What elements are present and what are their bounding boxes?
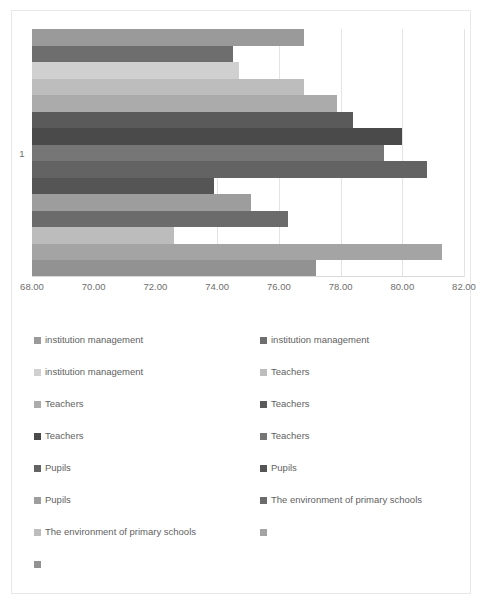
bar[interactable] bbox=[32, 62, 239, 79]
bar[interactable] bbox=[32, 178, 214, 195]
value-axis-labels: 68.0070.0072.0074.0076.0078.0080.0082.00 bbox=[32, 279, 464, 299]
bar[interactable] bbox=[32, 161, 427, 178]
value-tick-label: 80.00 bbox=[390, 281, 414, 292]
legend-item-label: Teachers bbox=[271, 398, 310, 410]
legend-swatch-icon bbox=[34, 337, 41, 344]
legend-item-label: The environment of primary schools bbox=[45, 526, 196, 538]
bar[interactable] bbox=[32, 145, 384, 162]
legend-item[interactable]: Teachers bbox=[260, 429, 310, 443]
bar-series-group bbox=[32, 29, 464, 277]
legend-swatch-icon bbox=[34, 561, 41, 568]
legend-item[interactable]: institution management bbox=[34, 365, 143, 379]
value-tick-label: 76.00 bbox=[267, 281, 291, 292]
legend-item[interactable]: Teachers bbox=[260, 365, 310, 379]
legend-swatch-icon bbox=[260, 401, 267, 408]
bar[interactable] bbox=[32, 112, 353, 129]
bar[interactable] bbox=[32, 79, 304, 96]
legend-item-label: Pupils bbox=[271, 462, 297, 474]
legend-item-label: Pupils bbox=[45, 462, 71, 474]
value-tick-label: 82.00 bbox=[452, 281, 476, 292]
legend-swatch-icon bbox=[260, 337, 267, 344]
legend-item-label: Teachers bbox=[271, 366, 310, 378]
legend-item-label: Teachers bbox=[45, 430, 84, 442]
bar[interactable] bbox=[32, 227, 174, 244]
legend-swatch-icon bbox=[34, 465, 41, 472]
legend-swatch-icon bbox=[260, 497, 267, 504]
legend-item[interactable]: Pupils bbox=[260, 461, 297, 475]
legend-item[interactable]: The environment of primary schools bbox=[260, 493, 422, 507]
legend-item[interactable]: Teachers bbox=[260, 397, 310, 411]
legend-item-label: Teachers bbox=[271, 430, 310, 442]
legend-item[interactable]: institution management bbox=[260, 333, 369, 347]
legend-swatch-icon bbox=[34, 497, 41, 504]
chart-legend: institution managementinstitution manage… bbox=[34, 333, 454, 581]
legend-item[interactable]: Pupils bbox=[34, 461, 71, 475]
legend-item[interactable]: institution management bbox=[34, 333, 143, 347]
bar[interactable] bbox=[32, 244, 442, 261]
bar[interactable] bbox=[32, 95, 337, 112]
legend-swatch-icon bbox=[260, 369, 267, 376]
bar[interactable] bbox=[32, 260, 316, 277]
legend-item[interactable]: Pupils bbox=[34, 493, 71, 507]
value-tick-label: 78.00 bbox=[329, 281, 353, 292]
value-axis-line bbox=[32, 276, 464, 277]
legend-item-label: institution management bbox=[45, 334, 143, 346]
legend-item-label: institution management bbox=[45, 366, 143, 378]
bar[interactable] bbox=[32, 128, 402, 145]
legend-item[interactable]: Teachers bbox=[34, 397, 84, 411]
legend-item-label: Pupils bbox=[45, 494, 71, 506]
legend-swatch-icon bbox=[34, 433, 41, 440]
legend-item[interactable] bbox=[34, 557, 45, 571]
bar[interactable] bbox=[32, 194, 251, 211]
plot-area bbox=[32, 29, 464, 277]
bar[interactable] bbox=[32, 211, 288, 228]
legend-item[interactable]: The environment of primary schools bbox=[34, 525, 196, 539]
value-tick-label: 68.00 bbox=[20, 281, 44, 292]
chart-frame: 1 68.0070.0072.0074.0076.0078.0080.0082.… bbox=[11, 10, 471, 594]
legend-swatch-icon bbox=[260, 433, 267, 440]
legend-item-label: Teachers bbox=[45, 398, 84, 410]
legend-swatch-icon bbox=[34, 369, 41, 376]
gridline bbox=[464, 29, 465, 277]
category-axis: 1 bbox=[12, 29, 32, 277]
bar[interactable] bbox=[32, 46, 233, 63]
value-tick-label: 70.00 bbox=[82, 281, 106, 292]
legend-swatch-icon bbox=[34, 401, 41, 408]
legend-item[interactable]: Teachers bbox=[34, 429, 84, 443]
value-tick-label: 72.00 bbox=[144, 281, 168, 292]
value-tick-label: 74.00 bbox=[205, 281, 229, 292]
bar[interactable] bbox=[32, 29, 304, 46]
legend-swatch-icon bbox=[260, 465, 267, 472]
category-tick-label: 1 bbox=[12, 148, 32, 159]
legend-item-label: The environment of primary schools bbox=[271, 494, 422, 506]
legend-item-label: institution management bbox=[271, 334, 369, 346]
legend-swatch-icon bbox=[260, 529, 267, 536]
legend-item[interactable] bbox=[260, 525, 271, 539]
legend-swatch-icon bbox=[34, 529, 41, 536]
